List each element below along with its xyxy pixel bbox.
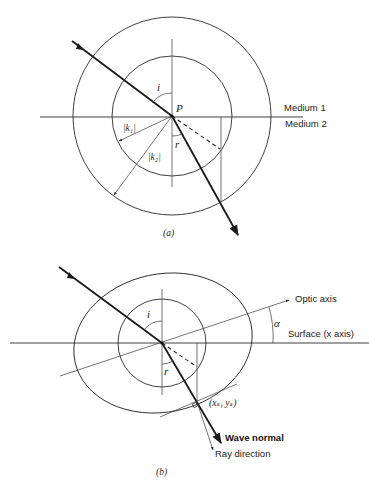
caption-b: (b) — [156, 467, 167, 478]
angle-r-arc-b — [162, 361, 173, 364]
label-alpha: α — [274, 317, 280, 329]
alpha-arc — [269, 307, 273, 343]
label-medium-2: Medium 2 — [285, 118, 327, 129]
label-k2: |k₂| — [148, 152, 161, 162]
label-r-b: r — [164, 365, 169, 377]
angle-i-arc-b — [144, 321, 162, 330]
label-i-b: i — [147, 308, 150, 320]
angle-r-arc — [172, 134, 182, 136]
wave-normal-ray — [162, 343, 221, 443]
label-p: P — [175, 102, 183, 114]
origin-point-b — [161, 342, 164, 345]
label-tangent-point: (xₛ, yₛ) — [209, 398, 237, 409]
figure-b: i r Optic axis α Surface (x axis) (xₛ, y… — [10, 257, 369, 478]
label-wave-normal: Wave normal — [225, 432, 284, 443]
label-i: i — [157, 81, 160, 93]
label-k1: |k₁| — [123, 123, 136, 133]
label-medium-1: Medium 1 — [284, 102, 326, 113]
label-optic-axis: Optic axis — [295, 293, 337, 304]
figure-a: i P r |k₁| |k₂| Medium 1 Medium 2 (a) — [40, 17, 327, 239]
label-ray-direction: Ray direction — [215, 448, 270, 459]
angle-i-arc — [153, 93, 172, 102]
caption-a: (a) — [163, 228, 174, 239]
refraction-diagram: i P r |k₁| |k₂| Medium 1 Medium 2 (a) — [0, 0, 369, 484]
label-r: r — [175, 138, 180, 150]
point-p — [170, 114, 173, 117]
incident-ray — [72, 41, 172, 116]
label-surface: Surface (x axis) — [288, 328, 354, 339]
